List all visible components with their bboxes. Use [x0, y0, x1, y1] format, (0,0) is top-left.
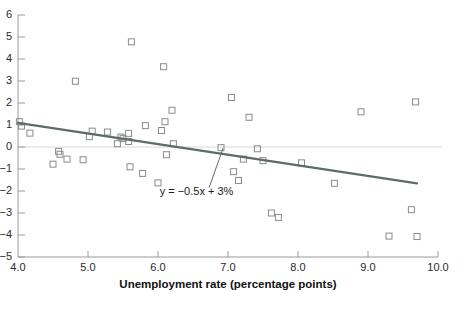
data-point-marker: [268, 210, 274, 216]
data-points-group: [16, 39, 420, 240]
data-point-marker: [236, 177, 242, 183]
data-point-marker: [169, 107, 175, 113]
y-axis-tick-label: 2: [6, 96, 12, 108]
data-point-marker: [229, 95, 235, 101]
x-axis-tick-label: 5.0: [80, 261, 95, 273]
y-axis: 6543210−1−2−3−4−5: [0, 8, 25, 262]
y-axis-tick-label: 4: [6, 52, 12, 64]
data-point-marker: [162, 119, 168, 125]
scatter-chart-figure: 6543210−1−2−3−4−5 4.05.06.07.08.09.010.0…: [0, 0, 472, 319]
y-axis-tick-label: 3: [6, 74, 12, 86]
data-point-marker: [27, 130, 33, 136]
data-point-marker: [140, 170, 146, 176]
x-axis-tick-label: 8.0: [290, 261, 305, 273]
trendline-equation-label: y = −0.5x + 3%: [160, 185, 234, 197]
x-axis-title: Unemployment rate (percentage points): [119, 278, 336, 290]
y-axis-tick-label: −3: [0, 206, 12, 218]
data-point-marker: [246, 114, 252, 120]
data-point-marker: [159, 128, 165, 134]
y-axis-tick-label: −4: [0, 228, 12, 240]
x-axis-tick-label: 4.0: [10, 261, 25, 273]
data-point-marker: [163, 152, 169, 158]
data-point-marker: [128, 39, 134, 45]
annotation-leader-line: [209, 148, 223, 188]
y-axis-tick-label: 0: [6, 140, 12, 152]
y-axis-tick-label: −1: [0, 162, 12, 174]
x-axis: 4.05.06.07.08.09.010.0: [10, 251, 448, 273]
trendline: [18, 123, 417, 184]
x-axis-tick-label: 10.0: [427, 261, 448, 273]
data-point-marker: [127, 164, 133, 170]
y-axis-tick-label: 5: [6, 30, 12, 42]
x-axis-tick-label: 9.0: [360, 261, 375, 273]
data-point-marker: [414, 234, 420, 240]
trendline-annotation-group: y = −0.5x + 3%: [160, 148, 234, 197]
data-point-marker: [408, 207, 414, 213]
data-point-marker: [275, 214, 281, 220]
data-point-marker: [358, 109, 364, 115]
y-axis-tick-label: 6: [6, 8, 12, 20]
data-point-marker: [142, 123, 148, 129]
data-point-marker: [72, 78, 78, 84]
data-point-marker: [413, 99, 419, 105]
x-axis-tick-label: 7.0: [220, 261, 235, 273]
data-point-marker: [105, 129, 111, 135]
trendline-group: [18, 123, 417, 184]
data-point-marker: [64, 156, 70, 162]
data-point-marker: [218, 145, 224, 151]
y-axis-tick-label: −2: [0, 184, 12, 196]
data-point-marker: [50, 161, 56, 167]
x-axis-tick-label: 6.0: [150, 261, 165, 273]
data-point-marker: [331, 180, 337, 186]
data-point-marker: [161, 64, 167, 70]
data-point-marker: [80, 157, 86, 163]
y-axis-tick-label: 1: [6, 118, 12, 130]
data-point-marker: [386, 233, 392, 239]
plot-canvas: 6543210−1−2−3−4−5 4.05.06.07.08.09.010.0…: [0, 0, 472, 319]
data-point-marker: [231, 169, 237, 175]
